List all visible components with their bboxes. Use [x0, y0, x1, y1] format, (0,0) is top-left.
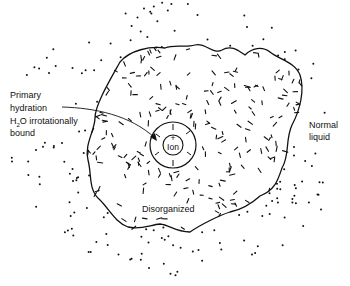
svg-text:liquid: liquid — [309, 132, 330, 142]
svg-text:hydration: hydration — [10, 103, 47, 113]
primary-hydration-label: Primary hydration H2O irrotationally bou… — [10, 90, 78, 138]
svg-text:Primary: Primary — [10, 90, 41, 100]
diagram-svg: + Ion Primary hydration H2O irrotational… — [0, 0, 350, 286]
svg-text:Normal: Normal — [309, 120, 338, 130]
svg-text:bound: bound — [10, 128, 35, 138]
disorganized-label: Disorganized — [142, 204, 195, 214]
svg-text:H2O irrotationally: H2O irrotationally — [10, 116, 78, 128]
hydration-diagram: + Ion Primary hydration H2O irrotational… — [0, 0, 350, 286]
normal-liquid-label: Normal liquid — [309, 120, 338, 142]
ion-label: Ion — [167, 142, 179, 152]
